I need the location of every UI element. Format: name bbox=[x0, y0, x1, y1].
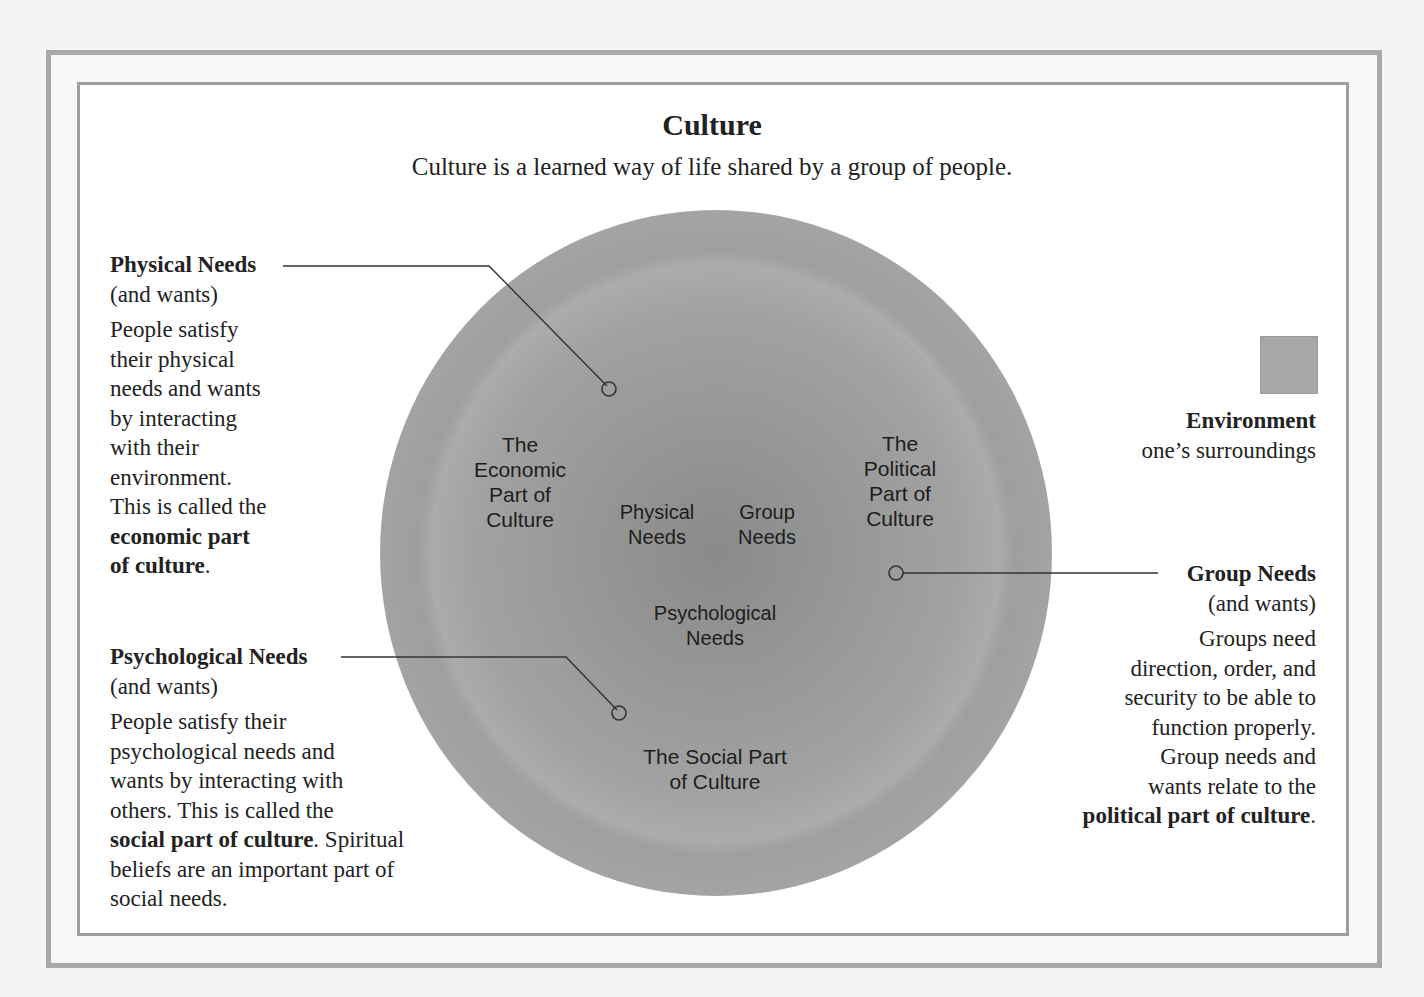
political-part-label: ThePoliticalPart ofCulture bbox=[830, 431, 970, 531]
economic-part-label: TheEconomicPart ofCulture bbox=[450, 432, 590, 532]
psychological-needs-heading: Psychological Needs bbox=[110, 644, 307, 669]
physical-needs-label: PhysicalNeeds bbox=[597, 500, 717, 550]
physical-needs-heading: Physical Needs bbox=[110, 252, 256, 277]
physical-needs-callout: Physical Needs (and wants) People satisf… bbox=[110, 250, 350, 581]
social-part-label: The Social Partof Culture bbox=[615, 744, 815, 794]
group-needs-heading: Group Needs bbox=[1187, 561, 1316, 586]
group-needs-callout: Group Needs (and wants) Groups need dire… bbox=[1000, 559, 1316, 831]
psychological-needs-label: PsychologicalNeeds bbox=[635, 601, 795, 651]
psychological-needs-callout: Psychological Needs (and wants) People s… bbox=[110, 642, 470, 914]
environment-legend-swatch bbox=[1260, 336, 1318, 394]
group-needs-label: GroupNeeds bbox=[717, 500, 817, 550]
environment-legend: Environment one’s surroundings bbox=[1060, 406, 1316, 465]
